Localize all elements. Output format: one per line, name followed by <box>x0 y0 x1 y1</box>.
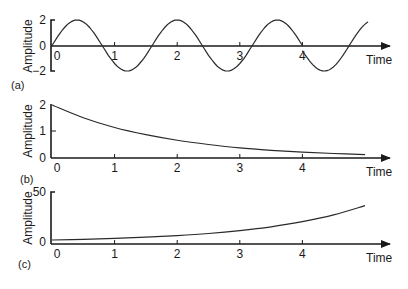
x-tick-labels: 01234 <box>54 161 306 175</box>
x-axis-title: Time <box>366 53 393 67</box>
y-tick-label: 1 <box>39 124 46 138</box>
y-tick-label: 0 <box>39 235 46 249</box>
x-tick-labels: 01234 <box>54 49 306 63</box>
x-tick-label: 1 <box>111 247 118 261</box>
x-tick-label: 3 <box>236 247 243 261</box>
x-tick-label: 0 <box>54 49 61 63</box>
growth-curve <box>52 206 365 240</box>
x-ticks <box>51 131 302 158</box>
y-axis-title: Amplitude <box>21 19 35 73</box>
x-tick-labels: 01234 <box>54 247 306 261</box>
panel-c-growth: 500 01234 Amplitude Time (c) <box>18 185 393 270</box>
series-line <box>52 206 365 240</box>
x-tick-label: 4 <box>299 161 306 175</box>
y-tick-label: 2 <box>39 13 46 27</box>
y-axis-title: Amplitude <box>21 104 35 158</box>
x-tick-label: 3 <box>236 161 243 175</box>
x-tick-label: 1 <box>111 161 118 175</box>
x-tick-label: 2 <box>174 49 181 63</box>
y-axis-title: Amplitude <box>21 191 35 245</box>
panel-label-c: (c) <box>18 258 31 270</box>
panel-a-sinusoid: 20−2 01234 Amplitude Time (a) <box>11 13 393 91</box>
x-tick-label: 0 <box>54 161 61 175</box>
y-axis <box>51 192 55 244</box>
y-tick-label: 0 <box>39 151 46 165</box>
panel-label-b: (b) <box>20 173 33 185</box>
panel-label-a: (a) <box>11 79 24 91</box>
series-line <box>52 105 365 155</box>
y-tick-label: 0 <box>39 39 46 53</box>
x-tick-label: 2 <box>174 161 181 175</box>
chart-canvas: 20−2 01234 Amplitude Time (a) 210 01234 … <box>0 0 408 289</box>
panel-b-decay: 210 01234 Amplitude Time (b) <box>20 98 393 185</box>
decay-curve <box>52 105 365 155</box>
x-axis-title: Time <box>366 251 393 265</box>
x-axis-title: Time <box>366 165 393 179</box>
x-tick-label: 2 <box>174 247 181 261</box>
x-tick-label: 0 <box>54 247 61 261</box>
y-tick-label: 2 <box>39 98 46 112</box>
y-tick-labels: 210 <box>39 98 46 165</box>
x-tick-label: 4 <box>299 247 306 261</box>
